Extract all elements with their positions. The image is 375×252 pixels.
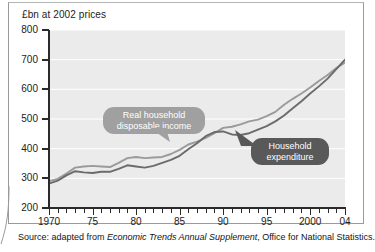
x-tick-minor: [214, 209, 215, 213]
x-tick-major: [180, 209, 181, 215]
x-tick-minor: [241, 209, 242, 213]
x-tick-label: 95: [261, 216, 272, 227]
x-tick-minor: [75, 209, 76, 213]
x-tick-minor: [145, 209, 146, 213]
x-tick-minor: [66, 209, 67, 213]
x-tick-minor: [293, 209, 294, 213]
y-tick: [42, 177, 49, 179]
x-tick-major: [136, 209, 137, 215]
x-tick-minor: [336, 209, 337, 213]
y-tick-label: 500: [4, 114, 38, 124]
x-tick-minor: [258, 209, 259, 213]
y-tick-label: 700: [4, 55, 38, 65]
y-tick: [42, 59, 49, 61]
x-tick-label: 85: [174, 216, 185, 227]
x-tick-minor: [284, 209, 285, 213]
x-tick-minor: [119, 209, 120, 213]
callout-income-tail: [150, 128, 172, 144]
y-tick: [42, 148, 49, 150]
x-tick-minor: [101, 209, 102, 213]
x-tick-minor: [171, 209, 172, 213]
x-tick-major: [223, 209, 224, 215]
x-tick-minor: [319, 209, 320, 213]
x-tick-major: [93, 209, 94, 215]
source-prefix: Source: adapted from: [18, 232, 107, 242]
y-tick-label: 300: [4, 173, 38, 183]
x-tick-minor: [188, 209, 189, 213]
y-tick-label: 800: [4, 25, 38, 35]
x-tick-minor: [197, 209, 198, 213]
x-tick-minor: [58, 209, 59, 213]
x-tick-minor: [153, 209, 154, 213]
y-tick: [42, 88, 49, 90]
x-tick-label: 90: [218, 216, 229, 227]
source-caption: Source: adapted from Economic Trends Ann…: [18, 232, 375, 242]
y-tick: [42, 29, 49, 31]
x-tick-minor: [328, 209, 329, 213]
callout-expenditure-tail: [233, 130, 257, 148]
y-tick: [42, 118, 49, 120]
x-tick-minor: [127, 209, 128, 213]
x-tick-minor: [232, 209, 233, 213]
x-tick-label: 1970: [38, 216, 60, 227]
x-tick-label: 2000: [299, 216, 321, 227]
x-tick-major: [310, 209, 311, 215]
x-tick-major: [49, 209, 50, 215]
callout-household-expenditure: Household expenditure: [251, 138, 329, 165]
x-tick-minor: [249, 209, 250, 213]
x-tick-minor: [301, 209, 302, 213]
x-tick-label: 75: [87, 216, 98, 227]
page-edge-decoration: [0, 186, 14, 246]
x-tick-major: [345, 209, 346, 215]
source-publication: Economic Trends Annual Supplement: [107, 232, 257, 242]
x-tick-label: 80: [130, 216, 141, 227]
x-tick-minor: [162, 209, 163, 213]
x-tick-minor: [275, 209, 276, 213]
x-tick-major: [267, 209, 268, 215]
y-tick-label: 400: [4, 144, 38, 154]
y-tick-label: 600: [4, 84, 38, 94]
x-tick-minor: [206, 209, 207, 213]
x-tick-minor: [110, 209, 111, 213]
x-tick-minor: [84, 209, 85, 213]
source-suffix: , Office for National Statistics.: [257, 232, 375, 242]
x-tick-label: 04: [339, 216, 350, 227]
